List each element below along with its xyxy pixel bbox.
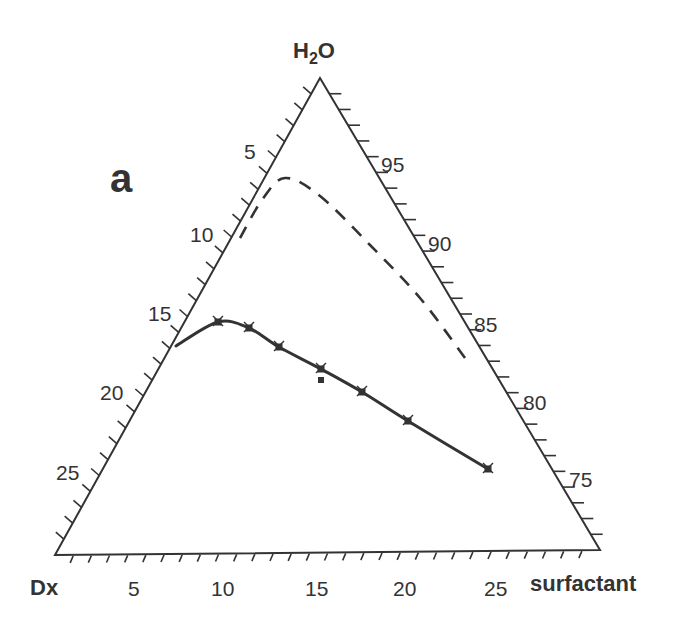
corner-label-surfactant: surfactant <box>530 573 636 595</box>
h2o-h: H <box>293 38 309 63</box>
bottom-axis-tick <box>415 553 418 560</box>
left-axis-tick <box>206 262 214 269</box>
bottom-axis-tick <box>234 554 237 561</box>
left-axis-tick <box>100 453 108 460</box>
left-axis-tick <box>65 516 73 523</box>
bottom-axis-tick <box>288 554 291 561</box>
bottom-axis-tick <box>197 555 200 562</box>
data-point-marker <box>246 325 253 332</box>
bottom-axis-tick <box>488 552 491 559</box>
left-axis-tick <box>127 405 135 412</box>
bottom-axis-label: 5 <box>128 578 140 599</box>
bottom-axis-tick <box>161 555 164 562</box>
left-axis-tick <box>233 214 241 221</box>
apex-label-h2o: H2O <box>293 40 335 62</box>
left-axis-tick <box>74 500 82 507</box>
left-axis-tick <box>286 119 294 126</box>
bottom-axis-tick <box>397 553 400 560</box>
data-point-marker <box>318 366 325 373</box>
left-axis-tick <box>162 341 170 348</box>
data-point-marker <box>276 344 283 351</box>
left-axis-tick <box>188 294 196 301</box>
h2o-o: O <box>318 38 335 63</box>
triangle-outline <box>55 78 600 555</box>
bottom-axis-tick <box>252 554 255 561</box>
bottom-axis-tick <box>343 553 346 560</box>
corner-label-dx: Dx <box>30 577 58 599</box>
left-axis-tick <box>109 437 117 444</box>
left-axis-tick <box>135 389 143 396</box>
left-axis-tick <box>180 310 188 317</box>
bottom-axis-tick <box>143 555 146 562</box>
left-axis-tick <box>118 421 126 428</box>
bottom-axis-tick <box>179 555 182 562</box>
left-axis-tick <box>171 325 179 332</box>
bottom-axis-tick <box>379 553 382 560</box>
right-axis-label: 80 <box>523 392 546 413</box>
left-axis-tick <box>197 278 205 285</box>
bottom-axis-tick <box>543 552 546 559</box>
right-axis-label: 90 <box>428 233 451 254</box>
right-axis-label: 75 <box>569 469 592 490</box>
left-axis-label: 5 <box>244 141 256 162</box>
left-axis-tick <box>303 87 311 94</box>
bottom-axis-tick <box>70 556 73 563</box>
left-axis-tick <box>250 182 258 189</box>
bottom-axis-tick <box>561 551 564 558</box>
left-axis-tick <box>241 198 249 205</box>
left-axis-tick <box>259 166 267 173</box>
left-axis-tick <box>224 230 232 237</box>
bottom-axis-tick <box>125 555 128 562</box>
bottom-axis-tick <box>524 552 527 559</box>
bottom-axis-label: 15 <box>305 578 328 599</box>
left-axis-label: 25 <box>56 462 79 483</box>
left-axis-label: 10 <box>190 224 213 245</box>
h2o-subscript: 2 <box>309 50 318 67</box>
bottom-axis-tick <box>434 553 437 560</box>
left-axis-tick <box>91 469 99 476</box>
left-axis-tick <box>82 484 90 491</box>
left-axis-tick <box>277 135 285 142</box>
bottom-axis-tick <box>325 554 328 561</box>
data-point-marker <box>215 319 222 326</box>
bottom-axis-label: 10 <box>211 578 234 599</box>
dashed-boundary-curve <box>240 178 465 358</box>
bottom-axis-tick <box>88 556 91 563</box>
data-point-marker <box>485 466 492 473</box>
solid-boundary-curve <box>176 321 488 469</box>
left-axis-tick <box>294 103 302 110</box>
left-axis-label: 15 <box>148 303 171 324</box>
left-axis-tick <box>144 373 152 380</box>
bottom-axis-tick <box>579 551 582 558</box>
bottom-axis-tick <box>470 552 473 559</box>
left-axis-tick <box>268 151 276 158</box>
bottom-axis-label: 25 <box>484 578 507 599</box>
bottom-axis-tick <box>216 555 219 562</box>
isolated-point-marker <box>318 377 324 383</box>
left-axis-tick <box>153 357 161 364</box>
right-axis-label: 95 <box>381 154 404 175</box>
bottom-axis-tick <box>306 554 309 561</box>
bottom-axis-tick <box>361 553 364 560</box>
panel-label: a <box>110 158 132 198</box>
ternary-diagram <box>0 0 693 641</box>
bottom-axis-label: 20 <box>393 578 416 599</box>
bottom-axis-tick <box>452 552 455 559</box>
bottom-axis-tick <box>270 554 273 561</box>
bottom-axis-tick <box>506 552 509 559</box>
data-point-marker <box>359 389 366 396</box>
left-axis-label: 20 <box>100 382 123 403</box>
left-axis-tick <box>56 532 64 539</box>
left-axis-tick <box>215 246 223 253</box>
bottom-axis-tick <box>107 556 110 563</box>
right-axis-label: 85 <box>474 314 497 335</box>
data-point-marker <box>405 418 412 425</box>
